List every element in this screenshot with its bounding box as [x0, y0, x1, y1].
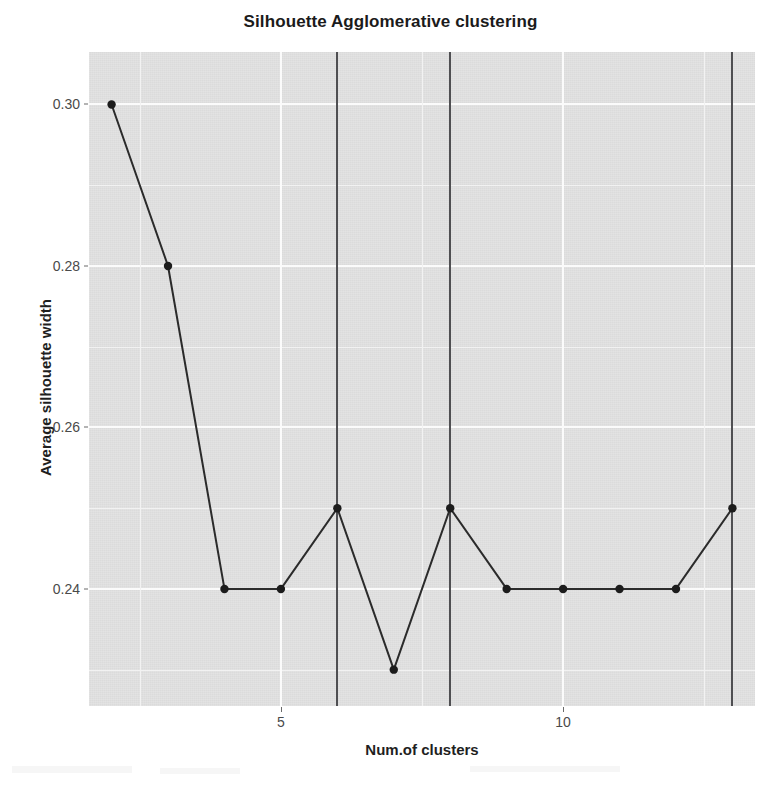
- data-point-marker: 9: 0.24: [502, 585, 510, 593]
- chart-title: Silhouette Agglomerative clustering: [0, 12, 781, 32]
- x-axis-tick-mark: [563, 707, 564, 712]
- y-axis-tick-mark: [84, 265, 88, 266]
- data-point-marker: 7: 0.23: [390, 665, 398, 673]
- data-point-marker: 10: 0.24: [559, 585, 567, 593]
- data-point-marker: 3: 0.28: [164, 262, 172, 270]
- data-point-marker: 5: 0.24: [277, 585, 285, 593]
- data-point-marker: 8: 0.25: [446, 504, 454, 512]
- y-axis-tick-label: 0.30: [18, 96, 80, 112]
- series-path: [112, 104, 733, 669]
- x-axis-tick-label: 10: [533, 714, 593, 730]
- y-axis-tick-mark: [84, 588, 88, 589]
- scan-artifact: [160, 768, 240, 774]
- x-axis-tick-mark: [281, 707, 282, 712]
- scan-artifact: [12, 766, 132, 773]
- data-point-marker: 12: 0.24: [672, 585, 680, 593]
- x-axis-label: Num.of clusters: [89, 741, 755, 758]
- y-axis-tick-mark: [84, 104, 88, 105]
- y-axis-label: Average silhouette width: [37, 248, 54, 528]
- y-axis-tick-label: 0.24: [18, 581, 80, 597]
- y-axis-tick-mark: [84, 427, 88, 428]
- figure-root: Silhouette Agglomerative clustering 2: 0…: [0, 0, 781, 788]
- data-point-marker: 2: 0.3: [107, 100, 115, 108]
- data-point-marker: 6: 0.25: [333, 504, 341, 512]
- plot-panel: 2: 0.33: 0.284: 0.245: 0.246: 0.257: 0.2…: [89, 52, 755, 706]
- series-line: 2: 0.33: 0.284: 0.245: 0.246: 0.257: 0.2…: [89, 52, 755, 706]
- data-point-marker: 4: 0.24: [220, 585, 228, 593]
- data-point-marker: 11: 0.24: [615, 585, 623, 593]
- x-axis-tick-label: 5: [251, 714, 311, 730]
- data-point-marker: 13: 0.25: [728, 504, 736, 512]
- scan-artifact: [470, 766, 620, 772]
